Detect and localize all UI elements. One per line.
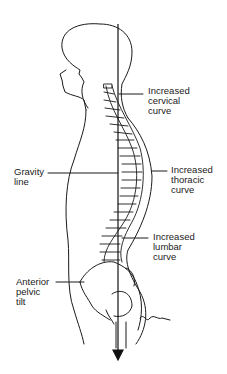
label-gravity-line: Gravity line: [14, 167, 44, 187]
front-outline: [66, 110, 86, 344]
artist-signature: [140, 316, 170, 320]
label-thoracic-curve: Increased thoracic curve: [171, 165, 213, 195]
label-lumbar-curve: Increased lumbar curve: [153, 232, 195, 262]
posture-diagram: Increased cervical curve Gravity line In…: [0, 0, 227, 374]
pelvis: [80, 262, 142, 330]
head-outline: [62, 24, 132, 118]
arrow-down-icon: [113, 350, 123, 360]
label-anterior-pelvic-tilt: Anterior pelvic tilt: [16, 277, 49, 307]
label-cervical-curve: Increased cervical curve: [148, 86, 190, 116]
gravity-line: [113, 24, 123, 360]
